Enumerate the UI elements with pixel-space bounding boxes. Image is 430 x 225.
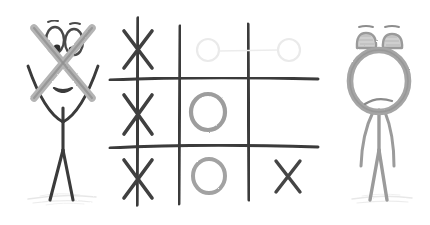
loser-eye-right-icon — [383, 34, 402, 48]
loser-eye-left-icon — [357, 33, 376, 48]
board-vertical-line-2 — [179, 26, 180, 204]
sketch-canvas — [0, 0, 430, 225]
board-cell-r1c2-empty[interactable] — [252, 84, 314, 144]
cartoon-scene: Tic Tac Toe Stick Figure Cartoon Hand-dr… — [0, 0, 430, 225]
loser-eyebrow-right-icon — [385, 26, 399, 27]
loser-eyebrow-left-icon — [359, 26, 373, 27]
winner-eyebrow-right-icon — [70, 23, 80, 24]
